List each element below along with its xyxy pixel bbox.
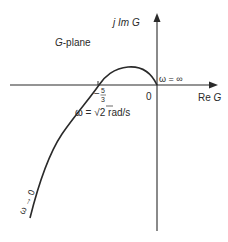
crossing-denominator: 3 bbox=[101, 96, 105, 103]
imag-axis-arrow-icon bbox=[154, 13, 161, 22]
imag-axis-label: j Im G bbox=[111, 17, 140, 28]
omega-infinity-label: ω = ∞ bbox=[159, 74, 183, 84]
crossing-numerator: 5 bbox=[101, 87, 105, 94]
crossing-frequency-label: ω = √2 rad/s bbox=[75, 107, 130, 118]
plane-label: G-plane bbox=[55, 37, 91, 48]
real-axis-label: Re G bbox=[198, 92, 222, 103]
origin-label: 0 bbox=[146, 91, 152, 102]
real-axis-arrow-icon bbox=[209, 82, 218, 89]
crossing-sign: − bbox=[94, 88, 100, 99]
nyquist-diagram: j Im G G-plane Re G 0 ω = ∞ − 5 3 ω = √2… bbox=[0, 0, 228, 242]
